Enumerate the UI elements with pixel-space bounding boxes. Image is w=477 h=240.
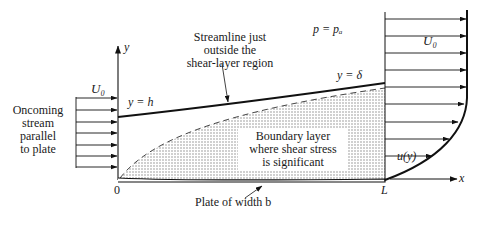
bl-thickness-label: y = δ [337,69,362,82]
origin-label: 0 [114,184,120,197]
streamline-note: Streamline just outside the shear-layer … [170,31,290,70]
outlet-velocity-label: U₀ [423,34,437,47]
x-axis-label: x [459,172,464,185]
oncoming-stream-label: Oncoming stream parallel to plate [2,104,74,156]
y-axis-label: y [124,41,129,54]
pressure-label: p = pₐ [313,23,343,36]
boundary-layer-note: Boundary layer where shear stress is sig… [238,129,348,170]
velocity-profile-label: u(y) [397,150,416,163]
inlet-velocity-label: U₀ [91,82,105,95]
inlet-velocity-arrows [76,97,117,168]
plate-note: Plate of width b [195,196,271,209]
plate-end-label: L [381,184,388,197]
streamline-height-label: y = h [128,96,153,109]
